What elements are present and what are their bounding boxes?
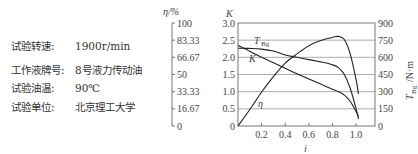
eta-tick-label: 33.33	[177, 86, 200, 97]
right-axis-label: TBg/N·m	[404, 61, 418, 100]
k-tick-label: 2.5	[223, 35, 236, 46]
k-tick-label: 0	[230, 121, 235, 132]
x-tick-label: 1.0	[350, 129, 363, 140]
t-tick-label: 900	[378, 18, 393, 29]
curves	[238, 36, 358, 126]
k-axis-label: K	[225, 8, 234, 19]
characteristic-chart: 016.6733.335066.6783.33100η/% 00.51.01.5…	[0, 0, 418, 154]
k-tick-label: 2.0	[223, 52, 236, 63]
eta-curve	[238, 36, 358, 126]
x-tick-label: 0.2	[255, 129, 268, 140]
eta-tick-label: 16.67	[177, 103, 200, 114]
k-tick-label: 1.0	[223, 86, 236, 97]
eta-tick-label: 83.33	[177, 35, 200, 46]
t-tick-label: 0	[378, 121, 383, 132]
t-tick-label: 750	[378, 35, 393, 46]
eta-tick-label: 66.67	[177, 52, 200, 63]
k-curve-label: K	[248, 53, 257, 64]
eta-tick-label: 0	[177, 121, 182, 132]
k-curve	[238, 45, 358, 116]
torque-curve-label-sub: Bg	[261, 40, 270, 48]
x-tick-label: 0.6	[303, 129, 316, 140]
t-tick-label: 150	[378, 103, 393, 114]
x-tick-label: 0.8	[326, 129, 339, 140]
right-axis-label-unit: /N·m	[404, 61, 415, 82]
eta-curve-label: η	[258, 98, 263, 109]
axis-labels: KiTBgKηTBg/N·m	[225, 8, 418, 154]
t-tick-label: 600	[378, 52, 393, 63]
x-tick-label: 0.4	[279, 129, 292, 140]
right-axis-label-sub: Bg	[410, 85, 418, 94]
eta-tick-label: 100	[177, 18, 192, 29]
k-tick-label: 3.0	[223, 18, 236, 29]
t-tick-label: 450	[378, 69, 393, 80]
t-tick-label: 300	[378, 86, 393, 97]
k-tick-label: 1.5	[223, 69, 236, 80]
x-axis-label: i	[304, 143, 307, 154]
eta-axis-label: η/%	[163, 6, 179, 17]
k-tick-label: 0.5	[223, 103, 236, 114]
eta-tick-label: 50	[177, 69, 187, 80]
eta-axis: 016.6733.335066.6783.33100η/%	[163, 6, 200, 132]
